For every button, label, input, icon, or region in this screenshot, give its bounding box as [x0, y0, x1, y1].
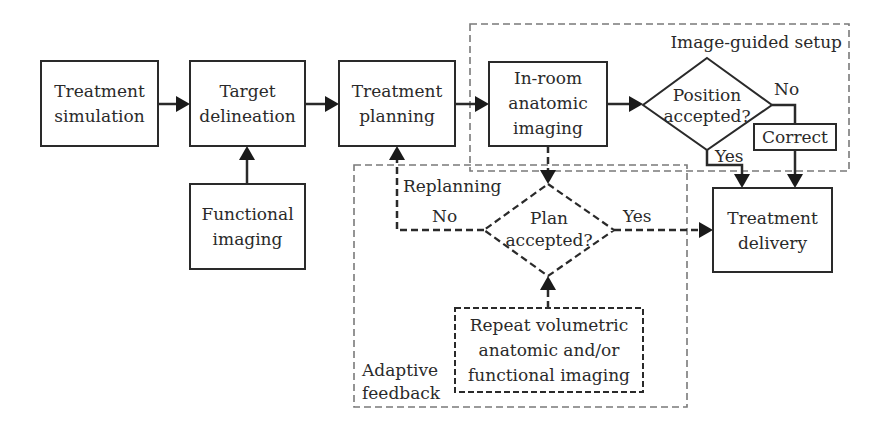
arrow-head-icon — [176, 96, 190, 112]
node-label: Repeat volumetric — [470, 315, 629, 335]
node-treatment-delivery: Treatment delivery — [713, 188, 832, 272]
node-label: anatomic — [508, 93, 587, 113]
node-label: Functional — [201, 204, 293, 224]
node-label: Treatment — [727, 208, 818, 228]
node-label: accepted? — [505, 230, 592, 250]
node-label: Correct — [762, 127, 828, 147]
arrow-head-icon — [699, 222, 713, 238]
decision-plan-accepted: Plan accepted? — [484, 184, 614, 276]
node-label: delineation — [199, 106, 295, 126]
group-label-adaptive-feedback: Adaptive — [361, 360, 438, 380]
node-functional-imaging: Functional imaging — [190, 184, 305, 269]
node-label: Target — [219, 81, 275, 101]
node-label: anatomic and/or — [479, 340, 621, 360]
edge-label-plan-no: No — [432, 206, 457, 226]
flowchart-canvas: Treatment simulation Target delineation … — [0, 0, 881, 428]
group-label-adaptive-feedback: feedback — [362, 383, 441, 403]
edge-label-plan-yes: Yes — [622, 206, 652, 226]
node-label: simulation — [54, 106, 144, 126]
arrow-head-icon — [325, 96, 339, 112]
arrow-head-icon — [389, 146, 405, 160]
arrow-head-icon — [540, 170, 556, 184]
node-label: delivery — [738, 233, 808, 253]
node-label: functional imaging — [468, 365, 630, 385]
node-treatment-planning: Treatment planning — [339, 61, 455, 146]
node-correct: Correct — [754, 124, 836, 150]
arrow-head-icon — [787, 174, 803, 188]
node-label: Treatment — [54, 81, 145, 101]
edge-label-position-no: No — [774, 79, 799, 99]
node-inroom-anatomic-imaging: In-room anatomic imaging — [489, 62, 607, 146]
decision-position-accepted: Position accepted? — [643, 58, 772, 150]
node-label: accepted? — [663, 106, 750, 126]
arrow-head-icon — [475, 96, 489, 112]
node-label: Treatment — [352, 81, 443, 101]
edge-label-position-yes: Yes — [714, 146, 744, 166]
arrow-head-icon — [239, 146, 255, 160]
edge-label-replanning: Replanning — [403, 176, 502, 196]
arrow-head-icon — [540, 276, 556, 290]
node-label: planning — [359, 106, 435, 126]
group-label-image-guided-setup: Image-guided setup — [670, 32, 842, 52]
node-treatment-simulation: Treatment simulation — [41, 61, 158, 146]
node-label: In-room — [514, 68, 582, 88]
node-label: imaging — [513, 118, 583, 138]
arrow-head-icon — [629, 96, 643, 112]
node-label: imaging — [213, 229, 283, 249]
arrow-head-icon — [734, 174, 750, 188]
node-label: Plan — [530, 208, 568, 228]
node-label: Position — [673, 85, 742, 105]
node-repeat-volumetric-imaging: Repeat volumetric anatomic and/or functi… — [455, 308, 643, 392]
node-target-delineation: Target delineation — [190, 61, 305, 146]
